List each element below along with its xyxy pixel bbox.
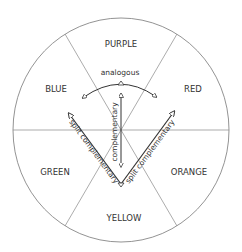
analogous-label: analogous: [101, 68, 140, 77]
split-complementary-right-label: split complementary: [123, 117, 177, 185]
segment-label-blue: BLUE: [45, 84, 67, 94]
split-vertex-marker: [118, 183, 124, 187]
segment-label-purple: PURPLE: [105, 39, 138, 49]
segment-label-yellow: YELLOW: [106, 213, 142, 223]
color-wheel-diagram: PURPLE RED ORANGE YELLOW GREEN BLUE anal…: [0, 0, 242, 252]
complementary-label: complementary: [110, 102, 119, 162]
segment-label-orange: ORANGE: [171, 167, 207, 177]
segment-label-red: RED: [184, 84, 202, 94]
analogous-center-marker: [118, 81, 124, 85]
segment-label-green: GREEN: [40, 167, 70, 177]
